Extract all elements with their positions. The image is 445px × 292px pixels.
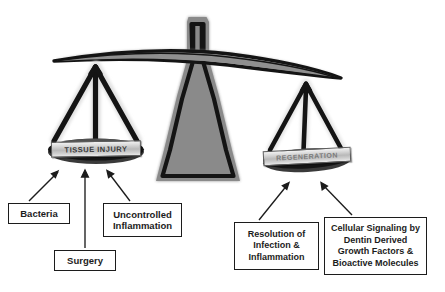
callout-cellular-signaling-line-2: Dentin Derived	[344, 235, 408, 247]
arrow-uncontrolled-inflammation	[107, 171, 130, 202]
arrow-cellular-signaling	[321, 183, 352, 216]
arrow-bacteria	[29, 171, 58, 201]
callout-surgery: Surgery	[54, 250, 116, 271]
callout-cellular-signaling: Cellular Signaling by Dentin Derived Gro…	[324, 217, 427, 275]
callout-uncontrolled-inflammation-line-1: Uncontrolled	[113, 209, 172, 221]
callout-bacteria: Bacteria	[8, 203, 70, 224]
figure-caption-cutoff	[0, 280, 445, 292]
callout-cellular-signaling-line-4: Bioactive Molecules	[332, 258, 418, 270]
pan-label-tissue-injury-text: TISSUE INJURY	[64, 144, 127, 154]
callout-bacteria-line-1: Bacteria	[20, 208, 58, 220]
callout-resolution-line-3: Inflammation	[248, 252, 304, 264]
callout-resolution-line-2: Infection &	[253, 240, 300, 252]
arrow-surgery	[82, 170, 89, 248]
callout-resolution-of-infection: Resolution of Infection & Inflammation	[234, 222, 319, 270]
balance-diagram-figure: TISSUE INJURY REGENERATION Bacteria Surg…	[0, 0, 445, 292]
fulcrum-pillar	[156, 17, 240, 181]
pan-label-regeneration-text: REGENERATION	[276, 151, 338, 161]
callout-cellular-signaling-line-3: Growth Factors &	[338, 246, 414, 258]
arrows-regeneration	[259, 183, 352, 221]
callout-uncontrolled-inflammation: Uncontrolled Inflammation	[103, 203, 182, 237]
callout-resolution-line-1: Resolution of	[248, 229, 306, 241]
pan-label-tissue-injury: TISSUE INJURY	[51, 140, 141, 158]
callout-cellular-signaling-line-1: Cellular Signaling by	[331, 223, 420, 235]
callout-uncontrolled-inflammation-line-2: Inflammation	[113, 220, 172, 232]
arrow-resolution	[259, 183, 289, 221]
callout-surgery-line-1: Surgery	[67, 255, 103, 267]
